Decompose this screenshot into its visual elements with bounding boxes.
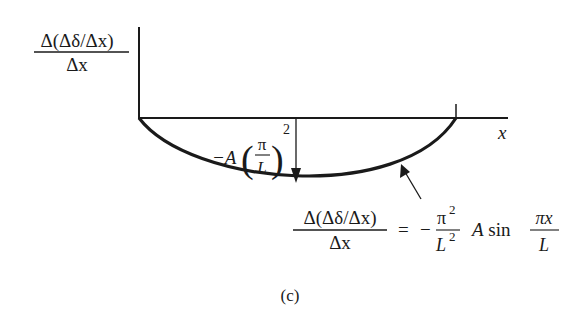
arrow-pointer-icon bbox=[400, 164, 410, 178]
min-label-frac-num: π bbox=[258, 135, 267, 154]
min-label-prefix: −A bbox=[212, 147, 237, 168]
eq-lhs-numerator: Δ(Δδ/Δx) bbox=[303, 207, 376, 229]
y-axis-label: Δ(Δδ/Δx) Δx bbox=[34, 30, 129, 75]
x-axis-label: x bbox=[497, 122, 507, 143]
y-label-numerator: Δ(Δδ/Δx) bbox=[40, 30, 113, 52]
left-paren: ( bbox=[241, 138, 254, 181]
eq-arg-den: L bbox=[538, 235, 549, 255]
eq-equals: = bbox=[398, 219, 409, 240]
eq-minus: − bbox=[420, 219, 431, 240]
diagram-canvas: Δ(Δδ/Δx) Δx x −A ( π L ) 2 Δ(Δδ/Δx) Δx =… bbox=[0, 0, 579, 332]
eq-lhs-denominator: Δx bbox=[329, 232, 351, 253]
eq-coef-num-exp: 2 bbox=[449, 202, 456, 217]
pointer-arrow-shaft bbox=[405, 172, 421, 199]
eq-coef-num: π bbox=[437, 208, 446, 228]
eq-term: A sin bbox=[470, 219, 511, 240]
right-paren: ) bbox=[271, 138, 284, 181]
min-label-exponent: 2 bbox=[283, 122, 290, 137]
figure-caption: (c) bbox=[281, 286, 300, 305]
eq-arg-num: πx bbox=[535, 208, 552, 228]
eq-coef-den-exp: 2 bbox=[449, 229, 456, 244]
equation: Δ(Δδ/Δx) Δx = − π 2 L 2 A sin πx L bbox=[293, 202, 559, 255]
eq-coef-den: L bbox=[435, 235, 446, 255]
y-label-denominator: Δx bbox=[66, 54, 88, 75]
curvature-curve bbox=[139, 118, 456, 176]
min-label-frac-den: L bbox=[256, 158, 266, 177]
min-value-label: −A ( π L ) 2 bbox=[212, 122, 290, 181]
